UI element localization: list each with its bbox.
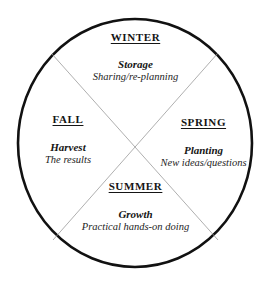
season-description-summer: Practical hands-on doing: [0, 221, 271, 233]
season-description-fall: The results: [6, 154, 130, 166]
season-title-spring: SPRING: [136, 116, 271, 128]
quadrant-winter: WINTER Storage Sharing/re-planning: [0, 31, 271, 82]
season-title-summer: SUMMER: [0, 180, 271, 192]
season-keyword-fall: Harvest: [6, 141, 130, 153]
season-title-fall: FALL: [6, 113, 130, 125]
quadrant-summer: SUMMER Growth Practical hands-on doing: [0, 180, 271, 232]
quadrant-fall: FALL Harvest The results: [6, 113, 130, 165]
quadrant-spring: SPRING Planting New ideas/questions: [136, 116, 271, 168]
season-description-spring: New ideas/questions: [136, 157, 271, 169]
season-keyword-winter: Storage: [0, 58, 271, 70]
season-description-winter: Sharing/re-planning: [0, 71, 271, 83]
season-title-winter: WINTER: [0, 31, 271, 43]
season-keyword-spring: Planting: [136, 144, 271, 156]
season-keyword-summer: Growth: [0, 208, 271, 220]
seasonal-wheel-diagram: WINTER Storage Sharing/re-planning SPRIN…: [0, 0, 271, 285]
